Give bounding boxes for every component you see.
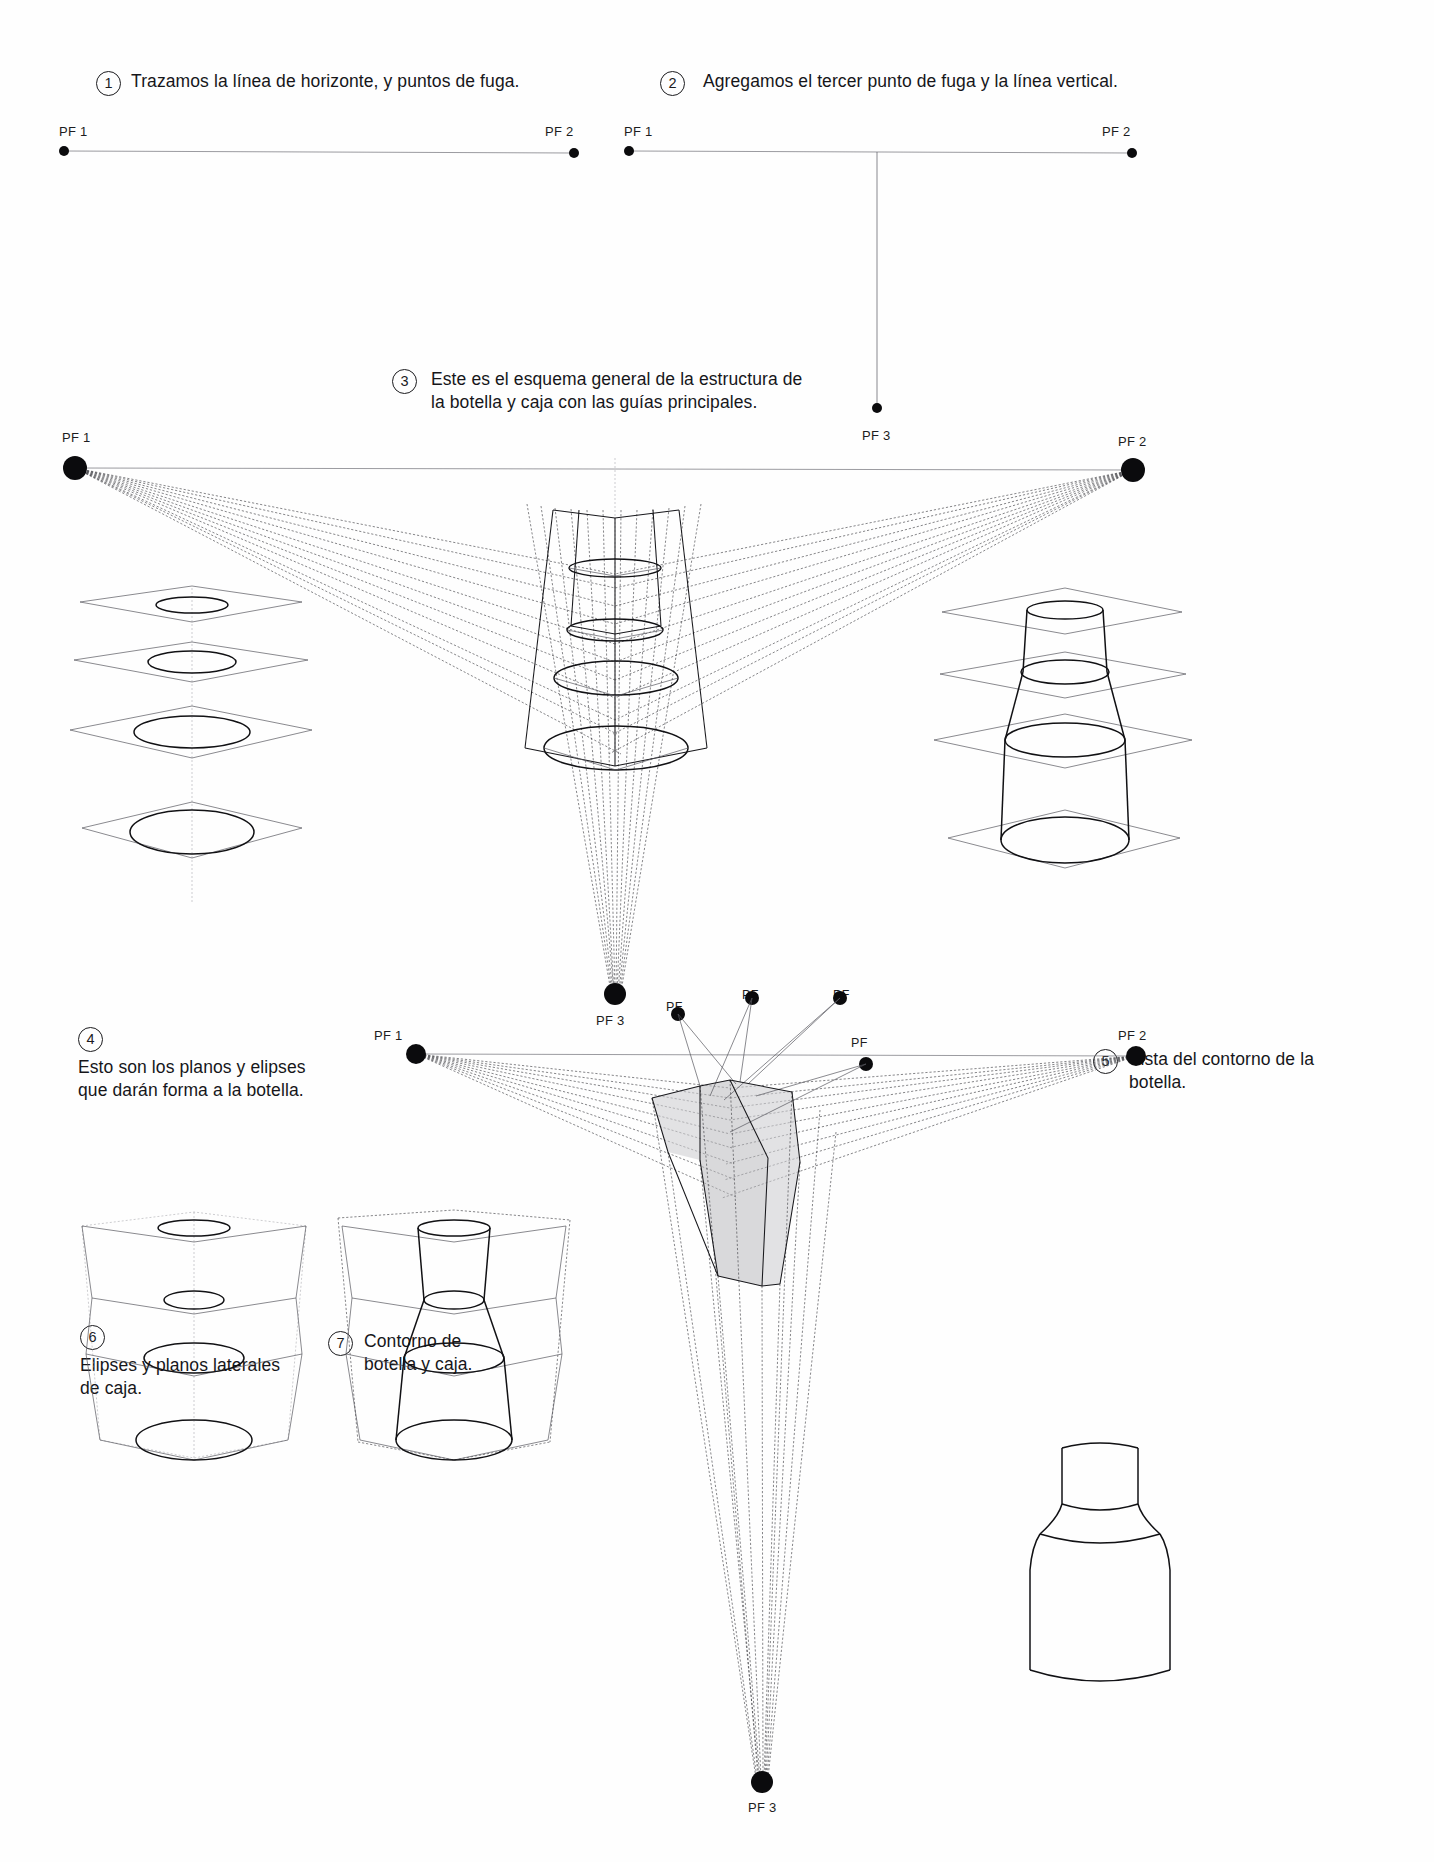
step-4-block: 4 Esto son los planos y elipses que dará… [78, 1026, 306, 1102]
diagram9-final-bottle [1000, 1430, 1220, 1710]
diagram3-pf2-label: PF 2 [1118, 434, 1147, 449]
step-number-1: 1 [96, 71, 121, 96]
step-caption-4: Esto son los planos y elipses que darán … [78, 1056, 306, 1102]
step-caption-2: Agregamos el tercer punto de fuga y la l… [703, 70, 1118, 93]
step-number-4: 4 [78, 1027, 103, 1052]
diagram6-box-planes [70, 1208, 320, 1468]
diagram3-pf1-label: PF 1 [62, 430, 91, 445]
step-caption-3: Este es el esquema general de la estruct… [431, 368, 802, 414]
step-number-2: 2 [660, 71, 685, 96]
step-caption-1: Trazamos la línea de horizonte, y puntos… [131, 70, 520, 93]
step-number-3: 3 [392, 369, 417, 394]
step-1-block: 1 Trazamos la línea de horizonte, y punt… [96, 70, 520, 96]
step-2-block: 2 Agregamos el tercer punto de fuga y la… [660, 70, 1118, 96]
diagram2-pf3-label: PF 3 [862, 428, 891, 443]
diagram1-horizon [50, 135, 610, 175]
diagram8-pf1-label: PF 1 [374, 1028, 403, 1043]
diagram8-pf3-label: PF 3 [748, 1800, 777, 1815]
tutorial-page: 1 Trazamos la línea de horizonte, y punt… [0, 0, 1434, 1862]
diagram4-planes-and-ellipses [62, 580, 322, 910]
step-3-block: 3 Este es el esquema general de la estru… [392, 368, 802, 414]
diagram5-bottle-contour [930, 582, 1200, 912]
